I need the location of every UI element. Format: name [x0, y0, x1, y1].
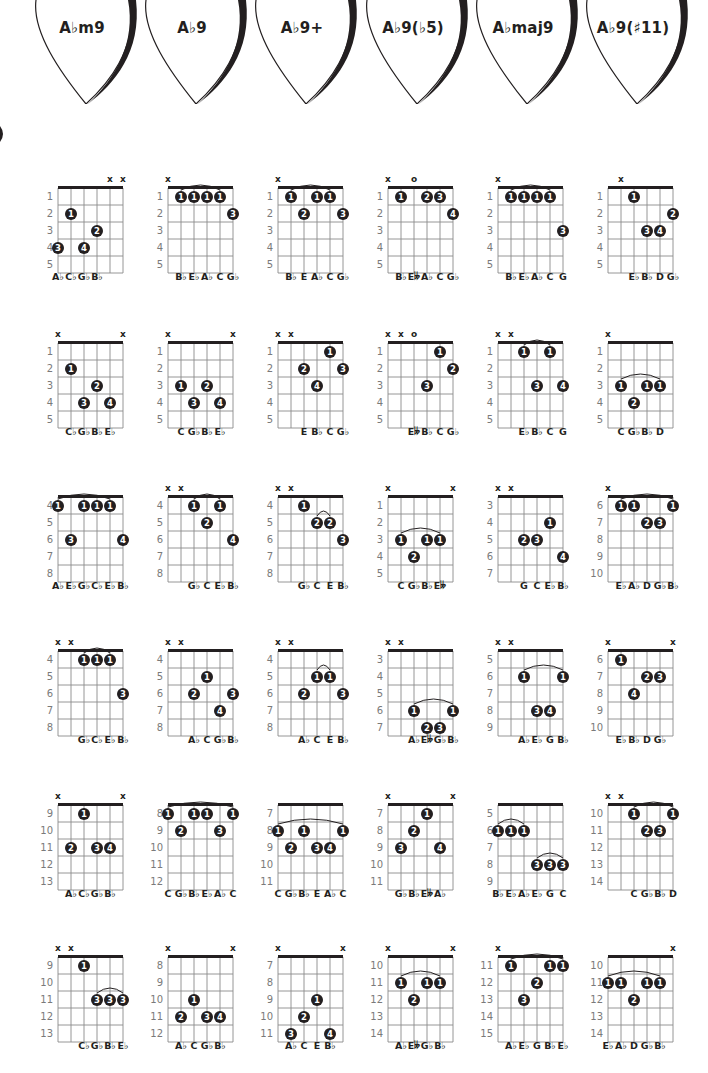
chord-diagram: 1011121314xx1123CG♭B♭D: [570, 789, 680, 904]
note-name: B♭: [91, 271, 103, 282]
note-name: E: [314, 1040, 321, 1051]
note-name: G♭: [337, 271, 349, 282]
finger-dot: 1: [285, 191, 297, 203]
note-name: E: [327, 734, 334, 745]
finger-dot: 2: [175, 825, 187, 837]
finger-dot: 1: [214, 500, 226, 512]
note-name: B♭: [214, 1040, 226, 1051]
note-name: A♭: [395, 1040, 407, 1051]
finger-dot: 1: [201, 191, 213, 203]
barre-arcs: [460, 327, 570, 427]
finger-dot: 3: [91, 842, 103, 854]
chord-note-names: B♭E♭A♭CG♭: [130, 271, 240, 285]
note-name: C♭: [91, 580, 102, 591]
note-name: G♭: [78, 426, 90, 437]
finger-dot: 3: [337, 688, 349, 700]
chord-note-names: CG♭B♭E𝄫: [350, 580, 460, 594]
finger-dot: 2: [531, 977, 543, 989]
finger-dot: 1: [531, 191, 543, 203]
barre-arcs: [350, 481, 460, 581]
chord-name-label: A♭9(♭5): [361, 19, 465, 37]
finger-dot: 1: [104, 500, 116, 512]
note-name: B♭: [434, 1040, 446, 1051]
finger-dot: 1: [615, 380, 627, 392]
note-name: B♭: [641, 271, 653, 282]
finger-dot: 1: [434, 977, 446, 989]
note-name: B♭: [175, 271, 187, 282]
barre-arcs: [350, 635, 460, 735]
note-name: G♭: [395, 888, 407, 899]
chord-note-names: CG♭B♭E♭: [130, 426, 240, 440]
chord-note-names: A♭CEB♭: [240, 1040, 350, 1054]
barre-arcs: [240, 172, 350, 272]
chord-note-names: CG♭B♭D: [570, 888, 680, 902]
note-name: B♭: [188, 888, 200, 899]
chord-diagram: 7891011111234CG♭B♭EA♭C: [240, 789, 350, 904]
note-name: E: [327, 580, 334, 591]
finger-dot: 2: [628, 994, 640, 1006]
finger-dot: 1: [505, 191, 517, 203]
finger-dot: 2: [628, 397, 640, 409]
note-name: E𝄫: [408, 1040, 421, 1052]
chord-diagram: 45678111134A♭E♭G♭C♭E♭B♭: [20, 481, 130, 596]
note-name: C: [204, 580, 211, 591]
finger-dot: 2: [285, 842, 297, 854]
finger-dot: 3: [337, 363, 349, 375]
finger-dot: 3: [531, 380, 543, 392]
chord-diagram: 89101112xx1234A♭CG♭B♭: [130, 941, 240, 1056]
finger-dot: 3: [544, 859, 556, 871]
note-name: E♭: [105, 426, 116, 437]
finger-dot: 2: [518, 534, 530, 546]
finger-dot: 1: [421, 534, 433, 546]
note-name: G♭: [298, 580, 310, 591]
chord-note-names: A♭CG♭B♭: [130, 734, 240, 748]
barre-arcs: [130, 481, 240, 581]
finger-dot: 1: [667, 500, 679, 512]
chord-note-names: A♭CG♭B♭: [130, 1040, 240, 1054]
note-name: E♭: [215, 426, 226, 437]
finger-dot: 1: [52, 500, 64, 512]
note-name: B♭: [104, 888, 116, 899]
chord-diagram: 12345xx1112CG♭B♭E𝄫: [350, 481, 460, 596]
note-name: C: [165, 888, 172, 899]
note-name: B♭: [492, 888, 504, 899]
note-name: C: [327, 426, 334, 437]
barre-arcs: [20, 481, 130, 581]
note-name: G: [533, 1040, 541, 1051]
finger-dot: 3: [214, 825, 226, 837]
finger-dot: 1: [311, 671, 323, 683]
barre-arcs: [570, 481, 680, 581]
chord-note-names: A♭E♭G♭C♭E♭B♭: [20, 580, 130, 594]
note-name: A♭: [52, 580, 64, 591]
finger-dot: 1: [518, 346, 530, 358]
note-name: A♭: [311, 271, 323, 282]
barre-arcs: [460, 635, 570, 735]
finger-dot: 3: [65, 534, 77, 546]
finger-dot: 1: [91, 500, 103, 512]
chord-diagram: 910111213xx1234A♭C♭G♭B♭: [20, 789, 130, 904]
finger-dot: 1: [324, 671, 336, 683]
note-name: C: [437, 426, 444, 437]
chord-note-names: A♭C♭G♭B♭: [20, 888, 130, 902]
note-name: A♭: [408, 734, 420, 745]
barre-arcs: [20, 635, 130, 735]
guitar-pick-icon: [471, 0, 589, 104]
chord-name-label: A♭m9: [30, 19, 134, 37]
barre-arcs: [20, 172, 130, 272]
finger-dot: 3: [654, 825, 666, 837]
note-name: A♭: [65, 888, 77, 899]
note-name: A♭: [505, 1040, 517, 1051]
finger-dot: 1: [311, 191, 323, 203]
finger-dot: 2: [201, 517, 213, 529]
finger-dot: 3: [285, 1028, 297, 1040]
finger-dot: 2: [298, 208, 310, 220]
note-name: C: [191, 1040, 198, 1051]
finger-dot: 4: [324, 842, 336, 854]
note-name: C: [314, 580, 321, 591]
finger-dot: 3: [654, 671, 666, 683]
barre-arcs: [130, 789, 240, 889]
note-name: C: [437, 271, 444, 282]
barre-arcs: [240, 789, 350, 889]
barre-arcs: [240, 635, 350, 735]
chord-diagram: 7891011xx1234A♭CEB♭: [240, 941, 350, 1056]
